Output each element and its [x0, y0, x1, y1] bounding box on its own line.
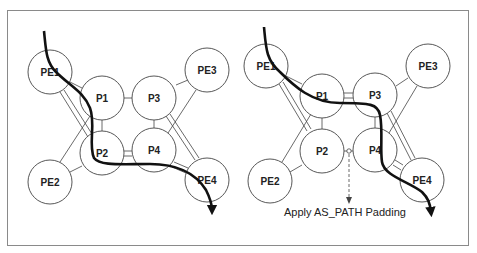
svg-text:P3: P3: [148, 93, 161, 104]
node-pe4: PE4: [400, 158, 444, 202]
node-p2: P2: [80, 131, 124, 175]
as-path-padding-label: Apply AS_PATH Padding: [284, 206, 406, 218]
node-p3: P3: [353, 73, 397, 117]
svg-text:PE2: PE2: [261, 176, 280, 187]
node-p4: P4: [353, 128, 397, 172]
node-pe2: PE2: [28, 160, 72, 204]
svg-text:PE2: PE2: [41, 177, 60, 188]
right-topology: PE1 P1 P3 PE3 P2 P4 PE2 PE4 Apply AS_PAT…: [244, 27, 450, 218]
svg-text:P1: P1: [96, 93, 109, 104]
network-diagram: PE1 P1 P3 PE3 P2 P4 PE2 PE4: [0, 0, 477, 253]
svg-text:PE4: PE4: [413, 175, 432, 186]
node-p1: P1: [300, 74, 344, 118]
node-pe1: PE1: [28, 50, 72, 94]
svg-text:P4: P4: [369, 145, 382, 156]
svg-text:PE3: PE3: [198, 65, 217, 76]
node-p2: P2: [300, 129, 344, 173]
svg-text:PE3: PE3: [419, 61, 438, 72]
node-pe3: PE3: [185, 48, 229, 92]
node-pe3: PE3: [406, 44, 450, 88]
node-p1: P1: [80, 76, 124, 120]
svg-text:P2: P2: [316, 146, 329, 157]
svg-text:P4: P4: [148, 145, 161, 156]
svg-text:P3: P3: [369, 90, 382, 101]
node-pe4: PE4: [185, 158, 229, 202]
node-pe2: PE2: [248, 159, 292, 203]
left-topology: PE1 P1 P3 PE3 P2 P4 PE2 PE4: [28, 31, 229, 210]
node-p3: P3: [132, 76, 176, 120]
as-path-padding-marker: [344, 149, 353, 204]
svg-text:P2: P2: [96, 148, 109, 159]
